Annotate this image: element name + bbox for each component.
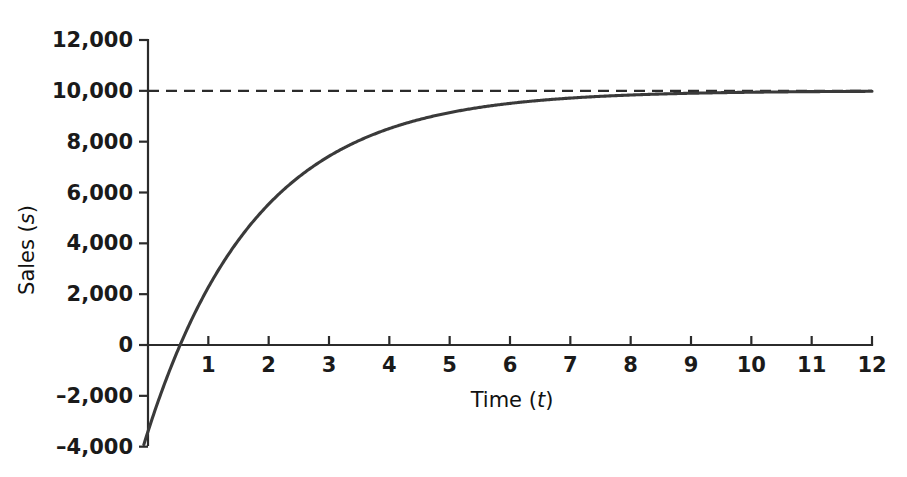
y-tick-label: 8,000 <box>67 130 133 154</box>
y-tick-label: 0 <box>118 333 133 357</box>
x-tick-label: 12 <box>857 353 886 377</box>
y-tick-label: 12,000 <box>52 28 133 52</box>
x-axis-title: Time (t) <box>470 388 554 412</box>
y-tick-label: –4,000 <box>56 435 133 459</box>
x-tick-label: 7 <box>563 353 578 377</box>
x-tick-label: 2 <box>261 353 276 377</box>
y-tick-label: –2,000 <box>56 384 133 408</box>
x-tick-label: 4 <box>382 353 397 377</box>
y-axis-title-group: Sales (s) <box>15 205 39 295</box>
chart-background <box>0 0 907 477</box>
x-axis-title-group: Time (t) <box>470 388 554 412</box>
y-tick-label: 2,000 <box>67 282 133 306</box>
y-tick-label: 6,000 <box>67 181 133 205</box>
x-tick-label: 8 <box>623 353 638 377</box>
x-tick-label: 1 <box>201 353 216 377</box>
x-tick-label: 5 <box>442 353 457 377</box>
x-tick-label: 3 <box>322 353 337 377</box>
x-tick-label: 11 <box>797 353 826 377</box>
y-tick-label: 10,000 <box>52 79 133 103</box>
x-tick-label: 6 <box>503 353 518 377</box>
x-tick-label: 9 <box>684 353 699 377</box>
chart-figure: –4,000–2,00002,0004,0006,0008,00010,0001… <box>0 0 907 477</box>
y-axis-title: Sales (s) <box>15 205 39 295</box>
chart-canvas: –4,000–2,00002,0004,0006,0008,00010,0001… <box>0 0 907 477</box>
x-tick-label: 10 <box>737 353 766 377</box>
y-tick-label: 4,000 <box>67 231 133 255</box>
